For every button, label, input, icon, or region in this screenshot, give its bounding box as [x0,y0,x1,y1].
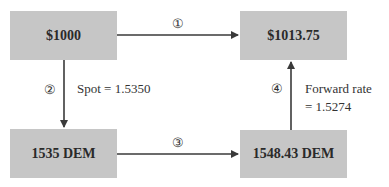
forward-rate-note-line1: Forward rate [305,82,372,95]
box-usd-start-label: $1000 [46,28,81,44]
box-usd-end-label: $1013.75 [267,28,320,44]
box-usd-end: $1013.75 [240,11,347,60]
box-dem-spot: 1535 DEM [10,129,117,178]
box-usd-start: $1000 [10,11,117,60]
box-dem-invested: 1548.43 DEM [240,130,347,178]
step-1-number: ① [172,17,184,30]
step-2-number: ② [44,83,56,96]
step-3-number: ③ [172,136,184,149]
box-dem-spot-label: 1535 DEM [31,146,95,162]
forward-rate-note-line2: = 1.5274 [305,100,351,113]
spot-rate-note: Spot = 1.5350 [77,82,150,95]
step-4-number: ④ [271,82,283,95]
box-dem-invested-label: 1548.43 DEM [253,146,335,162]
